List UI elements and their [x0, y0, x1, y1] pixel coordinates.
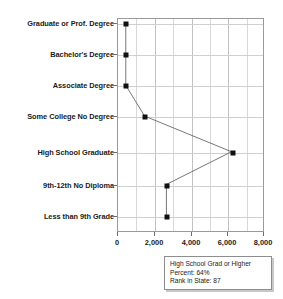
info-box-percent-row: Percent: 64%	[170, 269, 267, 278]
info-box: High School Grad or Higher Percent: 64% …	[164, 256, 272, 290]
info-box-rank-value: 87	[213, 277, 220, 284]
data-point-6	[165, 215, 170, 220]
data-point-5	[165, 184, 170, 189]
info-box-rank-row: Rank in State: 87	[170, 277, 267, 286]
info-box-rank-label: Rank in State:	[170, 277, 211, 284]
x-axis-label-8000: 8,000	[254, 238, 273, 247]
education-attainment-chart: Graduate or Prof. Degree Bachelor's Degr…	[0, 0, 283, 299]
info-box-percent-value: 64%	[196, 269, 209, 276]
x-axis-label-6000: 6,000	[218, 238, 237, 247]
category-label-graduate-or-prof-degree: Graduate or Prof. Degree	[27, 19, 114, 28]
info-box-percent-label: Percent:	[170, 269, 195, 276]
category-label-high-school-graduate: High School Graduate	[37, 148, 114, 157]
x-tick-2000	[154, 232, 155, 236]
category-label-less-than-9th-grade: Less than 9th Grade	[44, 212, 114, 221]
data-point-3	[143, 115, 148, 120]
data-point-0	[123, 22, 128, 27]
data-point-2	[123, 84, 128, 89]
x-axis-label-4000: 4,000	[182, 238, 201, 247]
info-box-title: High School Grad or Higher	[170, 260, 267, 269]
x-axis-label-0: 0	[115, 238, 119, 247]
category-label-bachelors-degree: Bachelor's Degree	[50, 50, 114, 59]
x-tick-6000	[227, 232, 228, 236]
plot-area	[117, 18, 264, 232]
x-tick-8000	[263, 232, 264, 236]
x-tick-4000	[191, 232, 192, 236]
category-label-associate-degree: Associate Degree	[53, 81, 114, 90]
category-label-some-college-no-degree: Some College No Degree	[27, 112, 114, 121]
x-tick-0	[117, 232, 118, 236]
data-point-1	[123, 53, 128, 58]
series-line	[118, 19, 263, 231]
x-axis-label-2000: 2,000	[145, 238, 164, 247]
category-label-9th-12th-no-diploma: 9th-12th No Diploma	[43, 181, 114, 190]
data-point-4	[231, 151, 236, 156]
